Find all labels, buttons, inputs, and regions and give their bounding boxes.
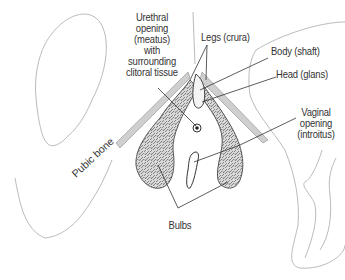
body-shaft-label: Body (shaft) bbox=[271, 46, 320, 57]
vaginal-opening bbox=[187, 152, 199, 188]
vaginal-opening-label: Vaginal opening (introitus) bbox=[291, 107, 341, 140]
left-pelvis-outline bbox=[35, 14, 106, 146]
head-glans-label: Head (glans) bbox=[276, 69, 328, 80]
right-edge-outline bbox=[320, 158, 336, 250]
pubic-bone-label: Pubic bone bbox=[69, 135, 116, 180]
legs-crura-label: Legs (crura) bbox=[201, 32, 250, 43]
right-inner-outline bbox=[304, 150, 322, 258]
bulbs-label: Bulbs bbox=[162, 220, 198, 231]
right-pelvis-outline bbox=[249, 22, 345, 268]
left-lower-outline bbox=[15, 160, 112, 238]
urethral-opening-label: Urethral opening (meatus) with surroundi… bbox=[116, 12, 188, 78]
midline bbox=[193, 12, 195, 64]
